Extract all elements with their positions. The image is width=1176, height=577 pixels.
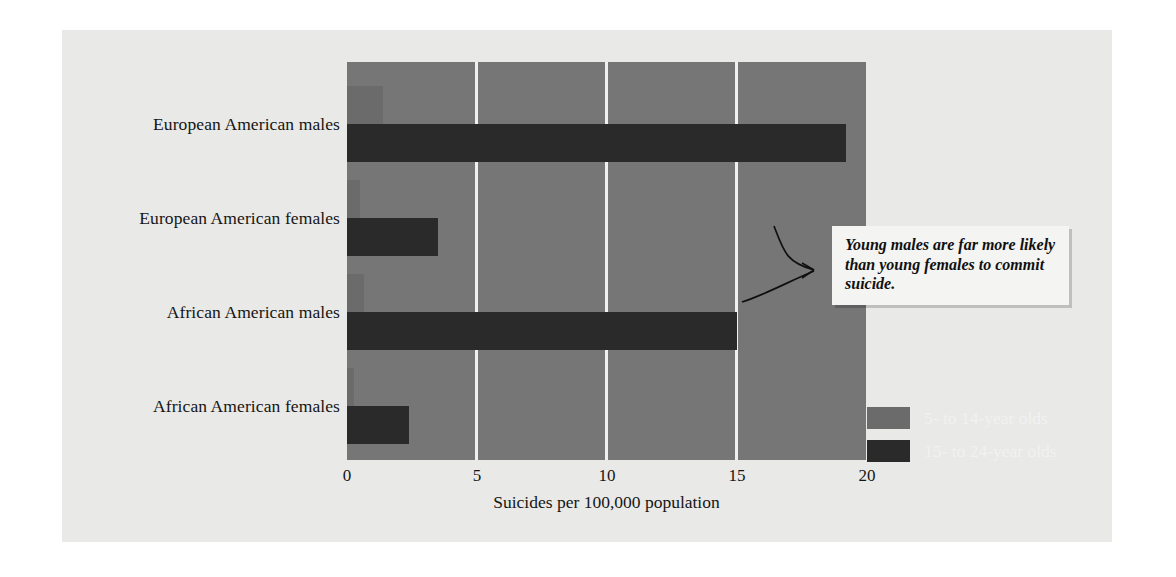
legend: 5- to 14-year olds 15- to 24-year olds bbox=[867, 407, 1057, 473]
bar-european-american-females-5-14 bbox=[347, 180, 360, 218]
bar-african-american-males-5-14 bbox=[347, 274, 364, 312]
gridline-10 bbox=[605, 62, 608, 460]
figure-panel: 5- to 14-year olds 15- to 24-year olds E… bbox=[62, 30, 1112, 542]
callout-text: Young males are far more likely than you… bbox=[845, 235, 1057, 294]
legend-item-15-24: 15- to 24-year olds bbox=[867, 440, 1057, 462]
x-tick-0: 0 bbox=[343, 466, 352, 486]
gridline-15 bbox=[735, 62, 738, 460]
bar-african-american-males-15-24 bbox=[347, 312, 737, 350]
x-axis-title: Suicides per 100,000 population bbox=[347, 492, 866, 513]
gridline-5 bbox=[475, 62, 478, 460]
category-label-african-american-females: African American females bbox=[153, 396, 340, 417]
category-label-african-american-males: African American males bbox=[167, 302, 340, 323]
legend-item-5-14: 5- to 14-year olds bbox=[867, 407, 1057, 429]
legend-swatch-5-14 bbox=[867, 407, 910, 429]
bar-african-american-females-5-14 bbox=[347, 368, 354, 406]
plot-area: 5- to 14-year olds 15- to 24-year olds bbox=[347, 62, 866, 460]
bar-african-american-females-15-24 bbox=[347, 406, 409, 444]
category-label-european-american-females: European American females bbox=[139, 208, 340, 229]
x-tick-10: 10 bbox=[599, 466, 616, 486]
legend-label-15-24: 15- to 24-year olds bbox=[924, 441, 1057, 462]
x-tick-15: 15 bbox=[729, 466, 746, 486]
x-tick-20: 20 bbox=[859, 466, 876, 486]
bar-european-american-females-15-24 bbox=[347, 218, 438, 256]
legend-swatch-15-24 bbox=[867, 440, 910, 462]
bar-european-american-males-5-14 bbox=[347, 86, 383, 124]
callout-box: Young males are far more likely than you… bbox=[832, 226, 1069, 305]
x-tick-5: 5 bbox=[473, 466, 482, 486]
bar-european-american-males-15-24 bbox=[347, 124, 846, 162]
legend-label-5-14: 5- to 14-year olds bbox=[924, 408, 1048, 429]
category-label-european-american-males: European American males bbox=[153, 114, 340, 135]
